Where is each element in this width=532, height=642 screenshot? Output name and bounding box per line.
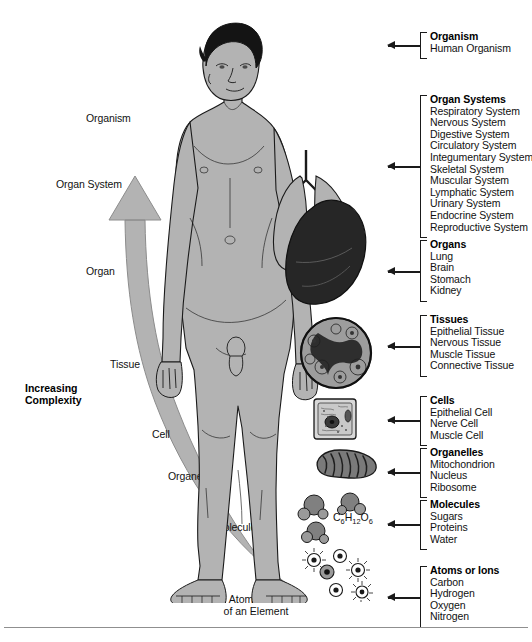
formula-o: O xyxy=(361,511,369,523)
arrowhead-icon xyxy=(387,342,395,350)
labels-cells: Cells Epithelial Cell Nerve Cell Muscle … xyxy=(430,395,492,441)
group-item: Ribosome xyxy=(430,482,495,494)
group-item: Muscular System xyxy=(430,175,532,187)
increasing-complexity-text: Increasing Complexity xyxy=(25,382,89,406)
connector-molecules xyxy=(388,524,420,526)
bracket-organelles xyxy=(420,448,427,498)
increasing-complexity-label: Increasing Complexity xyxy=(25,382,89,406)
formula-h-sub: 12 xyxy=(352,517,360,526)
connector-cells xyxy=(388,420,420,422)
arrowhead-icon xyxy=(387,416,395,424)
connector-organism xyxy=(388,45,420,47)
group-heading: Molecules xyxy=(430,499,480,511)
group-item: Reproductive System xyxy=(430,222,532,234)
group-item: Muscle Cell xyxy=(430,430,492,442)
bottom-divider xyxy=(4,627,528,628)
arrow-label-organism: Organism xyxy=(86,112,131,124)
arrowhead-icon xyxy=(387,520,395,528)
arrowhead-icon xyxy=(387,41,395,49)
group-heading: Organs xyxy=(430,239,471,251)
group-item: Integumentary System xyxy=(430,152,532,164)
bracket-organism xyxy=(420,32,427,59)
group-item: Water xyxy=(430,534,480,546)
labels-organelles: Organelles Mitochondrion Nucleus Ribosom… xyxy=(430,447,495,493)
group-item: Endocrine System xyxy=(430,210,532,222)
connector-organelles xyxy=(388,472,420,474)
bracket-organ-systems xyxy=(420,95,427,238)
group-item: Connective Tissue xyxy=(430,360,514,372)
cell-illustration xyxy=(308,396,366,442)
group-heading: Organelles xyxy=(430,447,495,459)
group-item: Kidney xyxy=(430,285,471,297)
connector-atoms-or-ions xyxy=(388,597,420,599)
bracket-atoms-or-ions xyxy=(420,566,427,628)
group-heading: Atoms or Ions xyxy=(430,565,499,577)
arrow-label-organ-system: Organ System xyxy=(56,178,122,190)
arrowhead-icon xyxy=(387,162,395,170)
arrow-label-organ: Organ xyxy=(86,265,115,277)
diagram-canvas: Organism Organ System Organ Tissue Cell … xyxy=(0,0,532,642)
labels-molecules: Molecules Sugars Proteins Water xyxy=(430,499,480,545)
bracket-organs xyxy=(420,240,427,302)
atoms-illustration xyxy=(296,548,382,602)
connector-organs xyxy=(388,271,420,273)
labels-atoms-or-ions: Atoms or Ions Carbon Hydrogen Oxygen Nit… xyxy=(430,565,499,623)
labels-organs: Organs Lung Brain Stomach Kidney xyxy=(430,239,471,297)
atom-caption-line2: of an Element xyxy=(196,606,316,618)
arrowhead-icon xyxy=(387,267,395,275)
connector-organ-systems xyxy=(388,166,420,168)
labels-organ-systems: Organ Systems Respiratory System Nervous… xyxy=(430,94,532,233)
formula-c: C xyxy=(333,511,341,523)
connector-tissues xyxy=(388,346,420,348)
bracket-molecules xyxy=(420,500,427,550)
group-item: Nitrogen xyxy=(430,611,499,623)
group-heading: Organism xyxy=(430,31,511,43)
group-heading: Organ Systems xyxy=(430,94,532,106)
labels-organism: Organism Human Organism xyxy=(430,31,511,54)
mitochondrion-illustration xyxy=(310,447,382,481)
formula-o-sub: 6 xyxy=(369,517,373,526)
bracket-cells xyxy=(420,396,427,446)
group-item: Human Organism xyxy=(430,43,511,55)
labels-tissues: Tissues Epithelial Tissue Nervous Tissue… xyxy=(430,314,514,372)
lungs-illustration xyxy=(272,146,392,308)
glucose-formula: C6H12O6 xyxy=(333,511,373,526)
arrowhead-icon xyxy=(387,593,395,601)
arrowhead-icon xyxy=(387,468,395,476)
group-heading: Tissues xyxy=(430,314,514,326)
arrow-label-tissue: Tissue xyxy=(110,358,140,370)
group-heading: Cells xyxy=(430,395,492,407)
bracket-tissues xyxy=(420,315,427,377)
tissue-illustration xyxy=(296,315,378,393)
